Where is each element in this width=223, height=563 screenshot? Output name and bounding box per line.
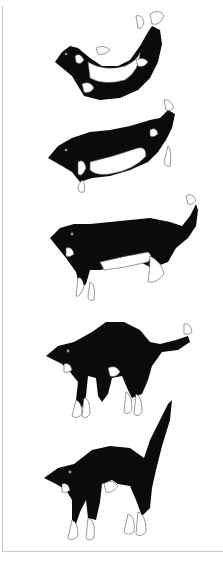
cat-stage-2: [48, 100, 175, 193]
cat-stage-3: [50, 195, 198, 301]
cat-stage-1: [55, 11, 164, 100]
cat-stage-5: [44, 400, 172, 540]
falling-cat-illustration: [0, 0, 223, 563]
